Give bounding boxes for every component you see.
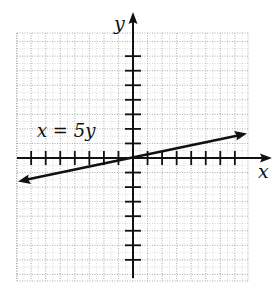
y-axis-label: y [113,12,125,34]
equation-label: x = 5y [37,120,96,141]
x-axis-label: x [258,160,269,182]
coordinate-plane: y x x = 5y [0,0,277,287]
